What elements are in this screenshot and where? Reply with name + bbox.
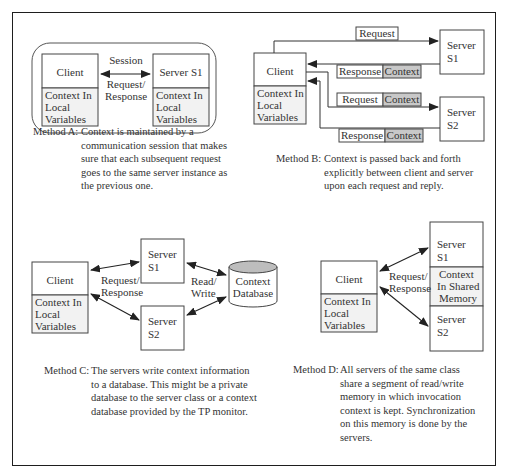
message-response-s2: Response Context (339, 129, 423, 142)
method-b-caption: Method B: Context is passed back and for… (276, 152, 506, 202)
client-label: Client (57, 66, 84, 78)
svg-text:Context: Context (385, 93, 420, 105)
caption-text: Context is maintained by a communication… (81, 125, 227, 193)
method-d-server-stack: Server S1 Context In Shared Memory Serve… (430, 222, 483, 351)
svg-text:Local: Local (324, 307, 349, 319)
svg-text:Context: Context (439, 268, 474, 280)
svg-text:Server: Server (437, 238, 466, 250)
caption-text: Context is passed back and forth explici… (324, 152, 473, 193)
svg-text:Variables: Variables (324, 319, 365, 331)
svg-text:Local: Local (156, 101, 181, 113)
svg-text:Response: Response (389, 282, 431, 294)
svg-text:Request/: Request/ (107, 78, 146, 90)
caption-label: Method A: (33, 125, 78, 139)
svg-text:Variables: Variables (35, 320, 76, 332)
svg-text:S1: S1 (437, 251, 449, 263)
svg-text:Server: Server (148, 315, 177, 327)
caption-text: The servers write context information to… (91, 364, 257, 418)
message-request-s1: Request (356, 27, 398, 40)
svg-text:Server: Server (447, 106, 476, 118)
svg-text:Variables: Variables (257, 111, 298, 123)
svg-text:Client: Client (336, 273, 363, 285)
svg-text:Response: Response (101, 286, 143, 298)
svg-text:Server: Server (437, 313, 466, 325)
server-label: Server S1 (159, 66, 202, 78)
svg-text:Context In: Context In (35, 296, 82, 308)
svg-text:Response: Response (339, 65, 381, 77)
method-b-server-s2: Server S2 (440, 97, 484, 141)
svg-text:S2: S2 (437, 326, 449, 338)
method-a-diagram: Client Context In Local Variables Server… (32, 43, 216, 133)
method-b-server-s1: Server S1 (440, 30, 484, 74)
method-d-client-box: Client Context In Local Variables (321, 261, 377, 332)
svg-text:Request/: Request/ (101, 274, 140, 286)
method-d-diagram: Client Context In Local Variables Server… (321, 222, 483, 351)
svg-text:Context In: Context In (45, 89, 92, 101)
svg-text:S2: S2 (148, 328, 160, 340)
method-c-diagram: Client Context In Local Variables Server… (32, 239, 277, 350)
method-b-client-box: Client Context In Local Variables (254, 53, 306, 124)
svg-text:Context In: Context In (156, 89, 203, 101)
svg-text:S2: S2 (447, 119, 459, 131)
svg-text:Context In: Context In (324, 295, 371, 307)
svg-text:Context In: Context In (257, 87, 304, 99)
svg-text:Read/: Read/ (191, 275, 218, 287)
caption-label: Method B: (276, 152, 321, 166)
svg-text:S1: S1 (148, 261, 160, 273)
svg-text:Request: Request (342, 93, 377, 105)
svg-text:Database: Database (233, 287, 273, 299)
svg-text:Local: Local (257, 99, 282, 111)
svg-text:Context: Context (236, 275, 271, 287)
svg-text:Local: Local (35, 308, 60, 320)
svg-text:Client: Client (267, 65, 294, 77)
svg-text:Response: Response (341, 129, 383, 141)
method-b-diagram: Client Context In Local Variables Server… (254, 27, 484, 142)
svg-text:S1: S1 (447, 52, 459, 64)
method-d-caption: Method D: All servers of the same class … (293, 363, 503, 453)
context-database: Context Database (229, 261, 277, 307)
svg-text:Write: Write (191, 287, 216, 299)
svg-text:Request/: Request/ (389, 270, 428, 282)
caption-label: Method C: (44, 364, 89, 378)
svg-text:Client: Client (47, 274, 74, 286)
method-a-server-box: Server S1 Context In Local Variables (153, 54, 209, 126)
svg-text:Server: Server (148, 248, 177, 260)
svg-text:In Shared: In Shared (437, 280, 480, 292)
message-response-s1: Response Context (337, 65, 421, 78)
method-c-server-s1: Server S1 (141, 239, 184, 283)
svg-text:Server: Server (447, 39, 476, 51)
svg-text:Variables: Variables (156, 113, 197, 125)
method-c-server-s2: Server S2 (141, 306, 184, 350)
caption-text: All servers of the same class share a se… (340, 363, 475, 444)
method-a-client-box: Client Context In Local Variables (42, 54, 98, 126)
svg-text:Variables: Variables (45, 113, 86, 125)
method-a-caption: Method A: Context is maintained by a com… (33, 125, 253, 205)
svg-text:Session: Session (109, 54, 143, 66)
svg-text:Request: Request (359, 27, 394, 39)
svg-text:Response: Response (105, 90, 147, 102)
svg-text:Local: Local (45, 101, 70, 113)
svg-text:Context: Context (387, 129, 422, 141)
method-c-caption: Method C: The servers write context info… (44, 364, 264, 424)
svg-text:Memory: Memory (439, 292, 477, 304)
method-c-client-box: Client Context In Local Variables (32, 262, 88, 333)
caption-label: Method D: (293, 363, 339, 377)
svg-text:Context: Context (385, 65, 420, 77)
message-request-s2: Request Context (337, 93, 421, 106)
